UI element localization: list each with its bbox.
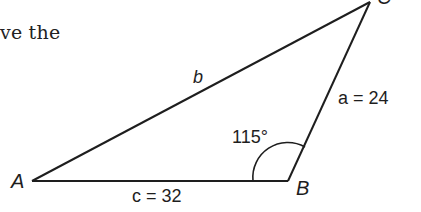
side-label-a: a = 24 (338, 88, 389, 108)
vertex-label-c: C (377, 0, 392, 8)
vertex-label-a: A (10, 170, 24, 192)
vertex-label-b: B (296, 177, 309, 199)
side-b (32, 2, 370, 181)
angle-label-b: 115° (232, 127, 268, 147)
side-label-c: c = 32 (132, 186, 182, 206)
side-label-b: b (193, 67, 203, 87)
triangle-diagram: A B C b a = 24 c = 32 115° (0, 0, 421, 212)
